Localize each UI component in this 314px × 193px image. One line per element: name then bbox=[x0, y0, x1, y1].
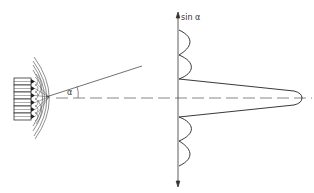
transducer-array bbox=[14, 78, 31, 120]
angle-label: α bbox=[67, 88, 72, 97]
beam-direction-line bbox=[46, 66, 142, 97]
arrow-down-icon bbox=[176, 181, 180, 187]
angle-arc bbox=[77, 87, 78, 98]
side-lobe-upper-inner bbox=[179, 55, 191, 79]
ray-lines bbox=[35, 82, 49, 117]
vertical-axis bbox=[176, 12, 180, 187]
side-lobe-lower-outer bbox=[179, 141, 190, 166]
side-lobe-upper-outer bbox=[179, 30, 190, 55]
element-markers bbox=[31, 79, 35, 119]
arrow-up-icon bbox=[176, 12, 180, 18]
array-directivity-diagram: α sin α bbox=[0, 0, 314, 193]
axis-label: sin α bbox=[181, 13, 200, 22]
side-lobe-lower-inner bbox=[179, 117, 191, 141]
